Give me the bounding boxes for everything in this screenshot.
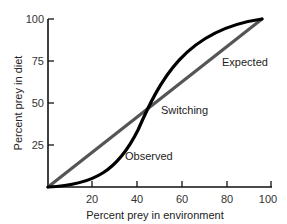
x-tick-label: 60: [176, 193, 188, 205]
y-tick-label: 50: [32, 97, 44, 109]
x-tick-label: 40: [131, 193, 143, 205]
observed-label: Observed: [125, 150, 173, 162]
x-axis-title: Percent prey in environment: [86, 209, 224, 221]
chart: 100 75 50 25 20 40 60 80 100 Percent pre…: [0, 0, 287, 224]
x-ticks: [92, 181, 271, 187]
y-tick-label: 25: [32, 139, 44, 151]
x-tick-label: 80: [221, 193, 233, 205]
y-tick-label: 100: [26, 13, 44, 25]
switching-label: Switching: [161, 104, 208, 116]
y-axis-title: Percent prey in diet: [12, 56, 24, 151]
y-ticks: [48, 19, 54, 145]
expected-label: Expected: [222, 56, 268, 68]
x-tick-label: 100: [259, 193, 277, 205]
x-tick-label: 20: [86, 193, 98, 205]
y-tick-label: 75: [32, 55, 44, 67]
